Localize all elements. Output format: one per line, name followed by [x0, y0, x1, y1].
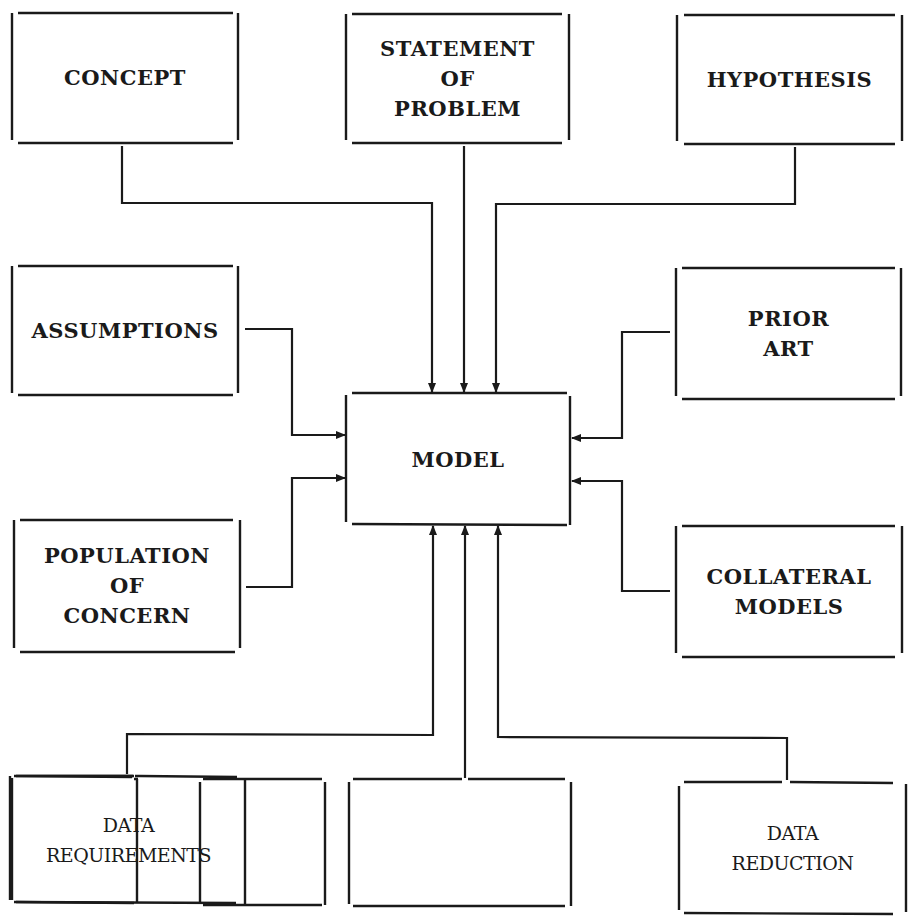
statement-of-problem-label: STATEMENT OF PROBLEM	[380, 34, 535, 124]
statement-of-problem-box: STATEMENT OF PROBLEM	[346, 14, 569, 143]
hypothesis-label: HYPOTHESIS	[707, 65, 873, 95]
prior-art-box: PRIOR ART	[676, 268, 901, 399]
population-of-concern-label: POPULATION OF CONCERN	[44, 541, 210, 631]
collateral-models-box: COLLATERAL MODELS	[676, 526, 902, 657]
hypothesis-box: HYPOTHESIS	[677, 15, 902, 145]
model-label: MODEL	[411, 445, 504, 475]
data-reduction-label: DATA REDUCTION	[732, 818, 854, 878]
prior-art-label: PRIOR ART	[748, 304, 829, 364]
collateral-models-label: COLLATERAL MODELS	[707, 562, 872, 622]
concept-box: CONCEPT	[12, 13, 238, 143]
assumptions-box: ASSUMPTIONS	[12, 266, 238, 395]
assumptions-label: ASSUMPTIONS	[31, 316, 218, 346]
population-of-concern-box: POPULATION OF CONCERN	[14, 520, 240, 652]
data-requirements-label: DATA REQUIREMENTS	[46, 810, 211, 870]
concept-label: CONCEPT	[64, 63, 186, 93]
data-requirements-box: DATA REQUIREMENTS	[12, 777, 245, 903]
model-box: MODEL	[346, 394, 570, 525]
blank-box	[349, 779, 571, 906]
data-reduction-box: DATA REDUCTION	[679, 783, 906, 913]
